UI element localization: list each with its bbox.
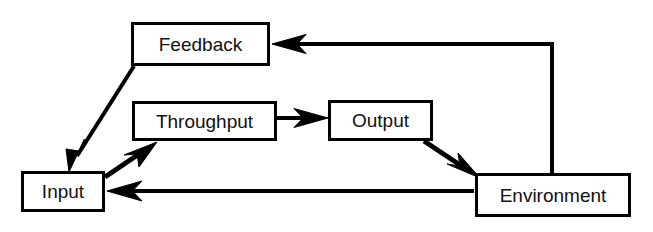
edge-input-to-throughput: [105, 142, 157, 177]
node-box-environment[interactable]: [477, 175, 630, 216]
edge-input-to-throughput-line: [105, 152, 142, 177]
edge-feedback-to-input: [66, 66, 134, 172]
edge-feedback-to-input-arrowhead: [66, 139, 85, 172]
systems-model-diagram: Feedback Throughput Output Input Environ…: [0, 0, 653, 232]
node-box-throughput[interactable]: [134, 103, 276, 140]
node-box-feedback[interactable]: [133, 24, 269, 65]
edge-environment-to-input: [107, 181, 474, 201]
diagram-canvas: [0, 0, 653, 232]
node-layer: [23, 24, 630, 216]
node-box-output[interactable]: [330, 102, 432, 140]
edge-feedback-to-input-line: [77, 66, 134, 156]
edge-output-to-environment: [424, 141, 480, 178]
edge-output-to-environment-line: [424, 141, 463, 167]
edge-throughput-to-output: [277, 109, 328, 128]
node-box-input[interactable]: [23, 173, 104, 211]
